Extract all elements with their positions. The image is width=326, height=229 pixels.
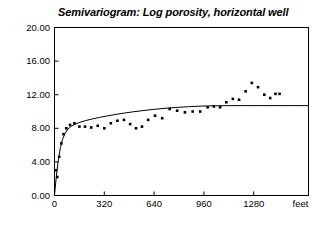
data-point-marker xyxy=(238,98,241,101)
data-point-marker xyxy=(103,127,106,130)
data-point-marker xyxy=(274,93,277,96)
data-point-marker xyxy=(69,124,72,127)
data-point-marker xyxy=(232,98,235,101)
data-point-marker xyxy=(213,105,216,108)
data-point-marker xyxy=(278,93,281,96)
data-point-marker xyxy=(135,127,138,130)
data-point-marker xyxy=(244,90,247,93)
data-point-marker xyxy=(58,156,61,159)
data-points xyxy=(55,82,281,179)
data-point-marker xyxy=(116,119,119,122)
data-point-marker xyxy=(184,111,187,114)
data-point-marker xyxy=(147,119,150,122)
data-point-marker xyxy=(154,114,157,117)
data-point-marker xyxy=(110,122,113,125)
data-point-marker xyxy=(60,142,63,145)
plot-graphics xyxy=(0,0,326,229)
data-point-marker xyxy=(269,97,272,100)
data-point-marker xyxy=(263,93,266,96)
data-point-marker xyxy=(84,125,87,128)
data-point-marker xyxy=(129,123,132,126)
semivariogram-chart: Semivariogram: Log porosity, horizontal … xyxy=(0,0,326,229)
data-point-marker xyxy=(161,117,164,120)
data-point-marker xyxy=(191,110,194,113)
data-point-marker xyxy=(65,127,68,130)
data-point-marker xyxy=(257,86,260,89)
data-point-marker xyxy=(219,106,222,109)
axis-ticks xyxy=(55,61,254,195)
data-point-marker xyxy=(96,124,99,127)
data-point-marker xyxy=(123,119,126,122)
data-point-marker xyxy=(176,109,179,112)
data-point-marker xyxy=(56,176,59,179)
data-point-marker xyxy=(55,169,58,172)
data-point-marker xyxy=(73,122,76,125)
data-point-marker xyxy=(206,106,209,109)
data-point-marker xyxy=(141,125,144,128)
model-curve-line xyxy=(55,106,309,196)
data-point-marker xyxy=(251,82,254,85)
data-point-marker xyxy=(62,133,65,136)
data-point-marker xyxy=(225,101,228,104)
data-point-marker xyxy=(90,126,93,129)
model-curve xyxy=(55,106,309,196)
data-point-marker xyxy=(199,110,202,113)
data-point-marker xyxy=(168,108,171,111)
data-point-marker xyxy=(78,125,81,128)
